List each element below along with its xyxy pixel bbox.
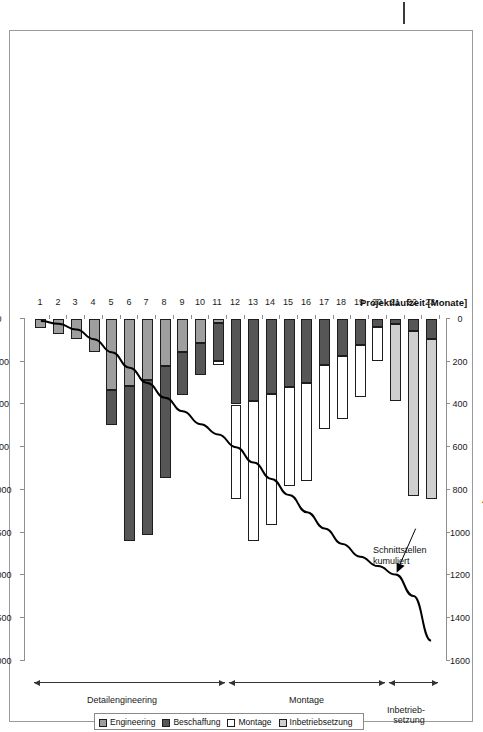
phase-bracket-arrow	[389, 680, 395, 686]
rotated-chart-canvas: 1234567891011121314151617181920212223 02…	[10, 31, 474, 723]
phase-bracket-arrow	[379, 680, 385, 686]
phase-bracket-arrow	[432, 680, 438, 686]
legend-swatch-icon	[99, 719, 107, 727]
phase-label-line1: Inbetrieb-	[387, 705, 425, 715]
phase-bracket-line	[229, 682, 385, 683]
phase-label-line2: setzung	[393, 715, 425, 725]
phase-bracket-arrow	[219, 680, 225, 686]
legend-swatch-icon	[227, 719, 235, 727]
phase-label: Montage	[289, 695, 324, 705]
legend-label: Montage	[238, 717, 271, 727]
phase-bracket-line	[389, 682, 438, 683]
legend-item: Beschaffung	[162, 717, 220, 727]
chart-legend: EngineeringBeschaffungMontageInbetriebse…	[94, 713, 364, 730]
legend-swatch-icon	[279, 719, 287, 727]
line-annotation-l1: Schnittstellen	[373, 545, 427, 556]
cumulative-line-series	[10, 31, 474, 723]
phase-label: Detailengineering	[87, 695, 157, 705]
line-annotation-l2: kumuliert	[373, 556, 427, 567]
legend-label: Inbetriebsetzung	[290, 717, 353, 727]
chart-figure-frame: 1234567891011121314151617181920212223 02…	[9, 30, 473, 722]
phase-bracket-arrow	[34, 680, 40, 686]
scan-artifacts	[0, 0, 483, 28]
phase-bracket-line	[34, 682, 225, 683]
phase-label: Inbetrieb-setzung	[387, 705, 425, 725]
legend-label: Engineering	[110, 717, 155, 727]
x-axis-title: Projektlaufzeit [Monate]	[360, 297, 467, 308]
legend-item: Engineering	[99, 717, 155, 727]
scan-edge-mark	[403, 2, 405, 24]
legend-swatch-icon	[162, 719, 170, 727]
line-annotation: Schnittstellen kumuliert	[373, 545, 427, 567]
legend-item: Inbetriebsetzung	[279, 717, 353, 727]
legend-item: Montage	[227, 717, 271, 727]
legend-label: Beschaffung	[173, 717, 220, 727]
cumulative-line-path	[41, 321, 431, 640]
phase-bracket-arrow	[229, 680, 235, 686]
